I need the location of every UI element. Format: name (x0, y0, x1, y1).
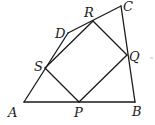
edge-sp (45, 68, 79, 102)
label-b: B (131, 104, 142, 119)
label-a: A (7, 105, 17, 120)
label-c: C (123, 0, 133, 14)
label-q: Q (129, 49, 140, 64)
label-r: R (83, 5, 94, 20)
label-p: P (73, 105, 83, 120)
geometry-diagram: A B C D P Q R S (0, 0, 155, 125)
outer-quadrilateral-abcd (24, 6, 135, 102)
edge-cd (68, 6, 121, 33)
edge-pq (79, 55, 127, 102)
edge-qr (93, 21, 127, 55)
label-d: D (54, 26, 66, 41)
edge-rs (45, 21, 93, 68)
label-s: S (34, 59, 43, 74)
